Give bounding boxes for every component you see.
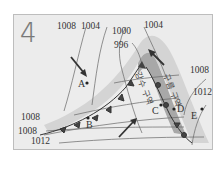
point-label-e: E [191, 111, 197, 121]
isobar-label-996: 996 [114, 41, 128, 51]
point-label-c: C [152, 106, 159, 116]
isobar-label-1004-right: 1004 [144, 21, 163, 31]
cloud-area-band [44, 36, 209, 143]
isobar-label-1008-right: 1008 [190, 66, 209, 76]
isobar-1012-bottom [59, 137, 204, 143]
weather-map: 4 1008 1004 1000 996 1004 1008 1012 1008… [13, 14, 213, 150]
figure-number: 4 [20, 20, 37, 46]
point-label-b: B [86, 120, 93, 130]
isobar-label-1000: 1000 [112, 27, 131, 37]
isobar-label-1008-left: 1008 [21, 113, 40, 123]
isobar-label-1008-top: 1008 [57, 22, 76, 32]
isobar-label-1004-top: 1004 [81, 22, 100, 32]
isobar-label-1012-bottom: 1012 [31, 137, 50, 147]
isobar-label-1012-right: 1012 [193, 88, 212, 98]
isobar-1008-top-left [64, 27, 86, 111]
point-label-a: A [78, 79, 85, 89]
